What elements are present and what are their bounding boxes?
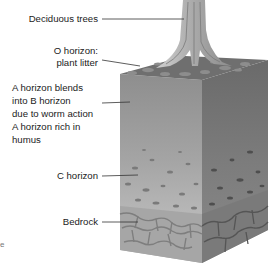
soil-side-face — [202, 60, 268, 263]
label-a-horizon-line3: due to worm action — [12, 108, 93, 120]
label-bedrock: Bedrock — [10, 216, 98, 228]
label-a-horizon-line1: A horizon blends — [12, 82, 83, 94]
label-c-horizon: C horizon — [10, 170, 98, 182]
label-a-horizon-line4: A horizon rich in — [12, 121, 80, 133]
label-o-horizon-desc: plant litter — [10, 57, 98, 69]
soil-front-face — [120, 74, 202, 263]
label-a-horizon-line5: humus — [12, 134, 41, 146]
label-a-horizon-line2: into B horizon — [12, 95, 71, 107]
label-o-horizon-title: O horizon: — [10, 45, 98, 57]
soil-block-illustration — [0, 0, 274, 269]
stray-text-fragment: e — [0, 239, 4, 251]
label-deciduous-trees: Deciduous trees — [10, 13, 98, 25]
